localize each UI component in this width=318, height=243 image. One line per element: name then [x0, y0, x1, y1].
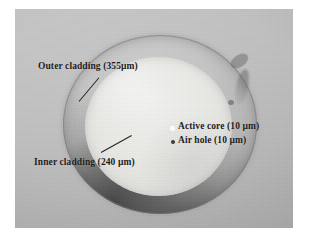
cladding-defect-icon — [228, 100, 234, 105]
annotation-outer-cladding: Outer cladding (355µm) — [38, 61, 138, 71]
annotation-air-hole: Air hole (10 µm) — [178, 135, 246, 145]
annotation-inner-cladding: Inner cladding (240 µm) — [34, 157, 135, 167]
air-hole-marker-icon — [171, 140, 175, 144]
annotation-active-core: Active core (10 µm) — [178, 121, 259, 131]
active-core-marker-icon — [170, 126, 175, 131]
figure-root: Outer cladding (355µm) Inner cladding (2… — [0, 0, 318, 243]
micrograph-image: Outer cladding (355µm) Inner cladding (2… — [15, 9, 293, 228]
